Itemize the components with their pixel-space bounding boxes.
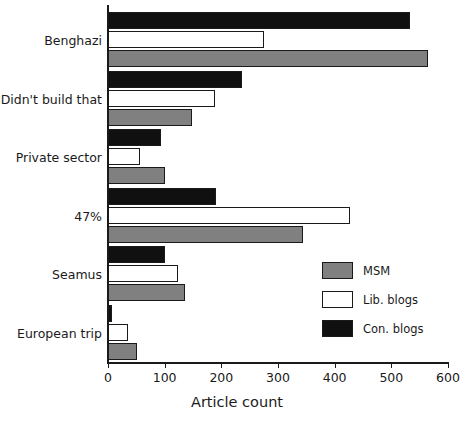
legend-label: MSM <box>363 264 390 278</box>
category-label: Didn't build that <box>0 92 102 107</box>
bar <box>108 343 137 360</box>
bar <box>108 129 161 146</box>
x-tick-label: 100 <box>145 370 185 385</box>
category-label: European trip <box>0 326 102 341</box>
bar <box>108 207 350 224</box>
legend-label: Lib. blogs <box>363 293 418 307</box>
bar <box>108 188 216 205</box>
bar <box>108 31 264 48</box>
bar <box>108 109 192 126</box>
bar-chart: BenghaziDidn't build thatPrivate sector4… <box>0 0 474 423</box>
x-tick <box>221 362 222 368</box>
x-tick-label: 500 <box>371 370 411 385</box>
x-tick <box>391 362 392 368</box>
x-axis-title: Article count <box>0 394 474 410</box>
x-tick <box>165 362 166 368</box>
legend-label: Con. blogs <box>363 322 424 336</box>
x-tick-label: 0 <box>88 370 128 385</box>
bar <box>108 90 215 107</box>
bar <box>108 12 410 29</box>
bar <box>108 284 185 301</box>
legend-swatch <box>322 320 353 337</box>
bar <box>108 246 165 263</box>
category-label: Seamus <box>0 267 102 282</box>
bar <box>108 226 303 243</box>
bar <box>108 50 428 67</box>
legend-swatch <box>322 262 353 279</box>
x-tick-label: 600 <box>428 370 468 385</box>
category-label: Private sector <box>0 150 102 165</box>
bar <box>108 167 165 184</box>
x-tick <box>108 362 109 368</box>
x-tick <box>278 362 279 368</box>
bar <box>108 265 178 282</box>
x-tick-label: 300 <box>258 370 298 385</box>
bar <box>108 324 128 341</box>
x-tick-label: 200 <box>201 370 241 385</box>
x-tick <box>335 362 336 368</box>
bar <box>108 71 242 88</box>
category-label: Benghazi <box>0 33 102 48</box>
category-label: 47% <box>0 209 102 224</box>
x-tick-label: 400 <box>315 370 355 385</box>
legend-swatch <box>322 291 353 308</box>
bar <box>108 305 112 322</box>
x-tick <box>448 362 449 368</box>
bar <box>108 148 140 165</box>
